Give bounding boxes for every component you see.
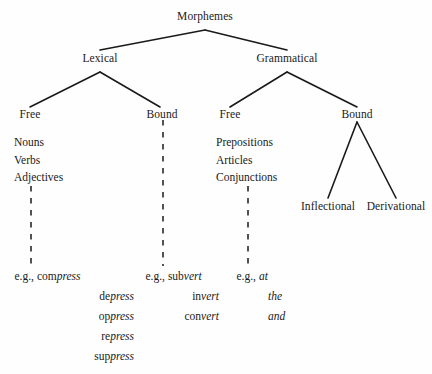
list-item: Prepositions: [216, 134, 277, 152]
example-word: repress: [101, 326, 134, 346]
node-morphemes-label: Morphemes: [177, 10, 233, 22]
example-word: compress: [37, 266, 81, 286]
example-word: and: [268, 306, 285, 326]
example-word-prefix: sub: [168, 270, 184, 282]
list-item: Adjectives: [14, 169, 63, 187]
example-row: depress: [6, 286, 134, 306]
node-grammatical-free-label: Free: [220, 108, 241, 120]
lexical-free-examples: e.g., compress depress oppress repress s…: [6, 266, 134, 366]
example-word-stem: press: [57, 270, 81, 282]
branch-root-to-lexical: [100, 30, 205, 50]
example-word-prefix: com: [37, 270, 57, 282]
node-lexical-free-label: Free: [20, 108, 41, 120]
node-lexical: Lexical: [82, 52, 117, 65]
example-word-prefix: in: [192, 290, 201, 302]
grammatical-free-category-list: Prepositions Articles Conjunctions: [216, 134, 277, 187]
lexical-free-category-list: Nouns Verbs Adjectives: [14, 134, 63, 187]
example-word: invert: [192, 286, 219, 306]
example-row: oppress: [6, 306, 134, 326]
list-item: Conjunctions: [216, 169, 277, 187]
branch-root-to-grammatical: [205, 30, 287, 50]
example-word-stem: vert: [201, 310, 219, 322]
node-lexical-label: Lexical: [82, 52, 117, 64]
node-derivational: Derivational: [367, 200, 426, 213]
example-word: subvert: [168, 266, 202, 286]
example-row: e.g., subvert: [137, 266, 219, 286]
example-word-stem: press: [110, 330, 134, 342]
example-word-prefix: op: [99, 310, 111, 322]
example-word: depress: [99, 286, 134, 306]
example-word: at: [259, 266, 268, 286]
lexical-bound-examples: e.g., subvert invert convert: [137, 266, 219, 326]
branch-bound-to-derivational: [357, 122, 396, 198]
example-row: invert: [137, 286, 219, 306]
example-label: e.g.,: [137, 266, 165, 286]
node-grammatical: Grammatical: [256, 52, 317, 65]
example-row: and: [228, 306, 285, 326]
example-word: convert: [185, 306, 220, 326]
example-word: the: [268, 286, 282, 306]
node-morphemes: Morphemes: [177, 10, 233, 23]
list-item: Articles: [216, 152, 277, 170]
list-item: Verbs: [14, 152, 63, 170]
branch-lexical-to-bound: [100, 72, 160, 107]
example-row: e.g., at: [228, 266, 285, 286]
example-label: e.g.,: [6, 266, 34, 286]
example-word-stem: vert: [201, 290, 219, 302]
node-lexical-free: Free: [20, 108, 41, 121]
node-derivational-label: Derivational: [367, 200, 426, 212]
example-row: convert: [137, 306, 219, 326]
example-row: suppress: [6, 346, 134, 366]
morpheme-tree-diagram: Morphemes Lexical Grammatical Free Bound…: [0, 0, 432, 374]
node-grammatical-free: Free: [220, 108, 241, 121]
branch-lexical-to-free: [30, 72, 100, 107]
branch-grammatical-to-free: [230, 72, 287, 107]
node-grammatical-label: Grammatical: [256, 52, 317, 64]
example-word-prefix: con: [185, 310, 202, 322]
example-row: e.g., compress: [6, 266, 134, 286]
example-word-stem: and: [268, 310, 285, 322]
example-row: repress: [6, 326, 134, 346]
example-word-stem: at: [259, 270, 268, 282]
node-grammatical-bound-label: Bound: [341, 108, 372, 120]
node-inflectional: Inflectional: [301, 200, 355, 213]
node-lexical-bound: Bound: [146, 108, 177, 121]
example-word-stem: press: [110, 310, 134, 322]
node-lexical-bound-label: Bound: [146, 108, 177, 120]
example-word: suppress: [94, 346, 134, 366]
example-word-prefix: sup: [94, 350, 110, 362]
example-row: the: [228, 286, 285, 306]
grammatical-free-examples: e.g., at the and: [228, 266, 285, 326]
branch-grammatical-to-bound: [287, 72, 357, 107]
example-word-stem: the: [268, 290, 282, 302]
branch-bound-to-inflectional: [328, 122, 357, 198]
example-word-stem: press: [110, 350, 134, 362]
example-word: oppress: [99, 306, 134, 326]
example-word-prefix: re: [101, 330, 110, 342]
node-inflectional-label: Inflectional: [301, 200, 355, 212]
list-item: Nouns: [14, 134, 63, 152]
example-word-stem: vert: [184, 270, 202, 282]
example-label: e.g.,: [228, 266, 256, 286]
example-word-prefix: de: [99, 290, 110, 302]
node-grammatical-bound: Bound: [341, 108, 372, 121]
example-word-stem: press: [110, 290, 134, 302]
